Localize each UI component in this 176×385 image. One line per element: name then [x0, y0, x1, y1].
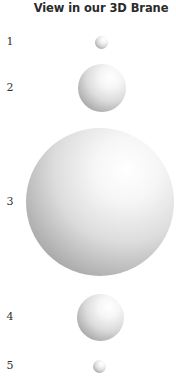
- label-4: 4: [6, 311, 14, 323]
- label-5: 5: [6, 360, 14, 372]
- sphere-3: [26, 128, 174, 276]
- label-3: 3: [6, 196, 14, 208]
- label-2: 2: [6, 82, 14, 94]
- sphere-5: [93, 360, 106, 373]
- sphere-2: [78, 64, 126, 112]
- sphere-1: [95, 36, 108, 49]
- sphere-4: [77, 294, 124, 341]
- label-1: 1: [6, 36, 14, 48]
- diagram-title: View in our 3D Brane: [0, 1, 176, 15]
